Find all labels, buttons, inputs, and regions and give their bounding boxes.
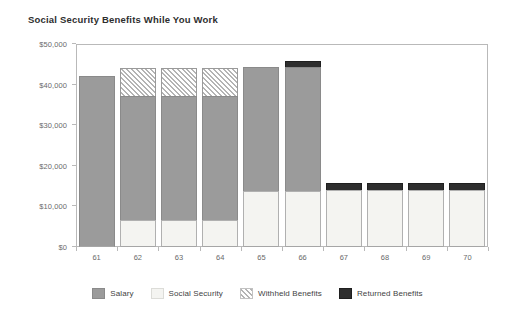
bar-age-64[interactable] (202, 68, 238, 247)
legend-item-social-security[interactable]: Social Security (151, 288, 223, 299)
bar-segment-social-security (161, 220, 197, 247)
y-axis-tick-mark (72, 205, 76, 206)
x-axis-tick-mark (158, 247, 159, 251)
bar-segment-salary (120, 96, 156, 220)
bar-age-66[interactable] (285, 61, 321, 247)
bar-segment-salary (161, 96, 197, 220)
x-axis-tick-mark (488, 247, 489, 251)
y-axis-tick-label: $50,000 (39, 40, 67, 49)
bar-segment-salary (285, 67, 321, 191)
x-axis-tick-label-68: 68 (381, 253, 389, 262)
y-axis-tick-label: $10,000 (39, 202, 67, 211)
bar-segment-returned-benefits (326, 183, 362, 190)
x-axis-tick-mark (282, 247, 283, 251)
y-axis-tick-mark (72, 43, 76, 44)
bar-segment-social-security (285, 191, 321, 247)
chart-legend: SalarySocial SecurityWithheld BenefitsRe… (0, 288, 515, 299)
legend-item-withheld-benefits[interactable]: Withheld Benefits (240, 288, 322, 299)
bar-age-63[interactable] (161, 68, 197, 247)
x-axis-tick-label-70: 70 (463, 253, 471, 262)
bar-segment-salary (243, 67, 279, 191)
bar-age-65[interactable] (243, 67, 279, 247)
legend-label: Social Security (169, 289, 223, 298)
x-axis-tick-mark (323, 247, 324, 251)
bar-age-67[interactable] (326, 183, 362, 247)
y-axis-tick-label: $0 (58, 243, 67, 252)
chart-card: Social Security Benefits While You Work … (0, 0, 515, 333)
bar-segment-salary (202, 96, 238, 220)
x-axis-tick-label-62: 62 (134, 253, 142, 262)
bar-age-70[interactable] (449, 183, 485, 247)
x-axis-tick-mark (117, 247, 118, 251)
x-axis-tick-mark (447, 247, 448, 251)
y-axis-tick-mark (72, 165, 76, 166)
y-axis-tick-label: $30,000 (39, 121, 67, 130)
bar-age-69[interactable] (408, 183, 444, 247)
bar-age-62[interactable] (120, 68, 156, 247)
x-axis-tick-label-65: 65 (257, 253, 265, 262)
bar-segment-social-security (243, 191, 279, 247)
y-axis-tick-mark (72, 84, 76, 85)
x-axis-tick-label-61: 61 (92, 253, 100, 262)
bar-segment-salary (79, 76, 115, 247)
x-axis-tick-label-67: 67 (340, 253, 348, 262)
returned-benefits-swatch (339, 288, 352, 299)
bar-age-61[interactable] (79, 76, 115, 247)
y-axis-tick-mark (72, 124, 76, 125)
x-axis-tick-mark (241, 247, 242, 251)
bar-segment-returned-benefits (367, 183, 403, 190)
bar-segment-withheld-benefits (202, 68, 238, 96)
x-axis-tick-label-69: 69 (422, 253, 430, 262)
bar-segment-social-security (202, 220, 238, 247)
bar-segment-social-security (326, 190, 362, 247)
legend-label: Salary (110, 289, 133, 298)
social-security-swatch (151, 288, 164, 299)
x-axis-tick-mark (406, 247, 407, 251)
bar-age-68[interactable] (367, 183, 403, 247)
bar-segment-social-security (408, 190, 444, 247)
legend-item-returned-benefits[interactable]: Returned Benefits (339, 288, 423, 299)
plot-area: $0$10,000$20,000$30,000$40,000$50,000 61… (76, 44, 488, 247)
x-axis-tick-label-64: 64 (216, 253, 224, 262)
bar-segment-social-security (120, 220, 156, 247)
x-axis-tick-label-66: 66 (298, 253, 306, 262)
y-axis-tick-label: $40,000 (39, 80, 67, 89)
x-axis-tick-label-63: 63 (175, 253, 183, 262)
bar-segment-social-security (449, 190, 485, 247)
x-axis-tick-mark (76, 247, 77, 251)
bar-segment-returned-benefits (449, 183, 485, 190)
x-axis-tick-mark (200, 247, 201, 251)
withheld-benefits-swatch (240, 288, 253, 299)
bar-segment-withheld-benefits (120, 68, 156, 96)
legend-item-salary[interactable]: Salary (92, 288, 133, 299)
legend-label: Returned Benefits (357, 289, 423, 298)
x-axis-tick-mark (364, 247, 365, 251)
legend-label: Withheld Benefits (258, 289, 322, 298)
salary-swatch (92, 288, 105, 299)
bar-segment-withheld-benefits (161, 68, 197, 96)
bar-segment-social-security (367, 190, 403, 247)
chart-title: Social Security Benefits While You Work (28, 14, 218, 25)
bar-segment-returned-benefits (408, 183, 444, 190)
y-axis-tick-label: $20,000 (39, 161, 67, 170)
